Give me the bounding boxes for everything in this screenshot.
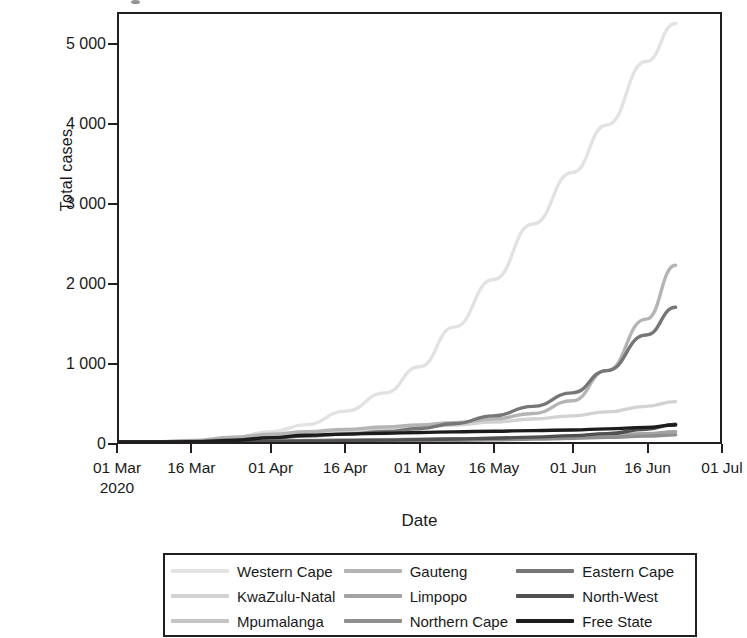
x-tick-mark (493, 444, 495, 453)
legend-line-swatch (344, 594, 402, 598)
legend-item-label: Western Cape (237, 564, 333, 579)
x-tick-label-text: 01 Apr (248, 459, 293, 476)
y-tick-label: 0 (14, 436, 106, 452)
legend-column-3: Eastern CapeNorth-WestFree State (516, 559, 689, 633)
legend-item[interactable]: Eastern Cape (516, 559, 689, 583)
y-tick-label: 1 000 (14, 356, 106, 372)
legend-line-swatch (171, 594, 229, 598)
x-tick-mark (572, 444, 574, 453)
legend-item-label: Northern Cape (410, 614, 508, 629)
legend-line-swatch (344, 619, 402, 623)
legend-item[interactable]: KwaZulu-Natal (171, 584, 344, 608)
legend-item[interactable]: North-West (516, 584, 689, 608)
legend-item[interactable]: Limpopo (344, 584, 517, 608)
legend-line-swatch (344, 569, 402, 573)
legend-item[interactable]: Mpumalanga (171, 609, 344, 633)
legend-line-swatch (516, 569, 574, 573)
x-tick-label-year: 2020 (72, 477, 162, 498)
legend-line-swatch (516, 594, 574, 598)
y-tick-label: 4 000 (14, 116, 106, 132)
series-line (119, 265, 676, 442)
x-tick-label: 01 Jul (677, 458, 747, 477)
y-tick-mark (108, 123, 117, 125)
x-tick-label: 16 Mar (146, 458, 236, 477)
legend-column-2: GautengLimpopoNorthern Cape (344, 559, 517, 633)
x-tick-label-text: 01 Jul (701, 459, 742, 476)
x-tick-label-text: 01 Mar (93, 459, 141, 476)
y-tick-mark (108, 43, 117, 45)
legend-item-label: Free State (582, 614, 652, 629)
legend-item[interactable]: Northern Cape (344, 609, 517, 633)
x-tick-mark (647, 444, 649, 453)
x-tick-label: 16 May (449, 458, 539, 477)
legend-column-1: Western CapeKwaZulu-NatalMpumalanga (171, 559, 344, 633)
legend-line-swatch (171, 619, 229, 623)
chart-legend: Western CapeKwaZulu-NatalMpumalanga Gaut… (163, 553, 697, 637)
x-tick-mark (190, 444, 192, 453)
y-tick-mark (108, 203, 117, 205)
x-tick-label-text: 16 Apr (323, 459, 368, 476)
x-axis-label: Date (117, 511, 722, 531)
x-tick-label-text: 01 Jun (550, 459, 597, 476)
y-tick-mark (108, 283, 117, 285)
legend-item[interactable]: Gauteng (344, 559, 517, 583)
legend-item-label: KwaZulu-Natal (237, 589, 335, 604)
chart-lines (119, 14, 720, 442)
y-tick-label: 5 000 (14, 36, 106, 52)
legend-item[interactable]: Western Cape (171, 559, 344, 583)
y-tick-label: 2 000 (14, 276, 106, 292)
y-tick-mark (108, 363, 117, 365)
x-tick-label-text: 16 Jun (624, 459, 671, 476)
plot-area (117, 12, 722, 444)
legend-item-label: Eastern Cape (582, 564, 674, 579)
x-tick-label-text: 01 May (394, 459, 445, 476)
y-tick-label: 3 000 (14, 196, 106, 212)
x-tick-mark (721, 444, 723, 453)
x-tick-mark (270, 444, 272, 453)
y-axis-ticks: 01 0002 0003 0004 0005 000 (0, 0, 106, 460)
legend-item-label: North-West (582, 589, 658, 604)
legend-item-label: Mpumalanga (237, 614, 324, 629)
legend-line-swatch (171, 569, 229, 573)
legend-item[interactable]: Free State (516, 609, 689, 633)
cropped-glyph-mark (131, 0, 140, 4)
x-tick-label-text: 16 May (468, 459, 519, 476)
x-tick-mark (419, 444, 421, 453)
x-tick-mark (116, 444, 118, 453)
series-line (119, 307, 676, 442)
legend-item-label: Limpopo (410, 589, 468, 604)
x-tick-label-text: 16 Mar (167, 459, 215, 476)
legend-line-swatch (516, 619, 574, 623)
x-tick-mark (344, 444, 346, 453)
legend-item-label: Gauteng (410, 564, 468, 579)
